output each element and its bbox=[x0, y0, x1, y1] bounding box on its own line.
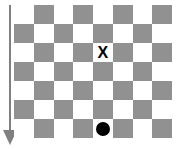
board-cell bbox=[73, 24, 93, 43]
board-cell bbox=[34, 24, 54, 43]
board-cell bbox=[113, 100, 133, 119]
board-cell bbox=[54, 24, 74, 43]
board-cell bbox=[133, 119, 153, 138]
board-cell bbox=[73, 43, 93, 62]
board-cell-with-dot bbox=[93, 119, 113, 138]
board-cell bbox=[113, 81, 133, 100]
board-cell bbox=[54, 100, 74, 119]
board-cell bbox=[54, 119, 74, 138]
board-cell bbox=[93, 5, 113, 24]
board-cell bbox=[73, 5, 93, 24]
board-cell bbox=[133, 81, 153, 100]
board-cell bbox=[73, 119, 93, 138]
board-cell bbox=[54, 5, 74, 24]
checkerboard: X bbox=[14, 5, 172, 138]
board-cell bbox=[54, 81, 74, 100]
board-cell bbox=[34, 43, 54, 62]
board-cell bbox=[152, 119, 172, 138]
board-cell bbox=[152, 43, 172, 62]
dot-marker bbox=[96, 122, 110, 136]
board-cell bbox=[113, 119, 133, 138]
figure-canvas: X bbox=[0, 0, 178, 149]
board-cell bbox=[34, 5, 54, 24]
board-cell bbox=[133, 24, 153, 43]
board-cell bbox=[14, 43, 34, 62]
board-cell bbox=[133, 100, 153, 119]
board-cell bbox=[133, 43, 153, 62]
board-cell bbox=[34, 100, 54, 119]
board-cell bbox=[152, 62, 172, 81]
board-cell bbox=[93, 81, 113, 100]
board-cell bbox=[14, 62, 34, 81]
board-cell bbox=[152, 100, 172, 119]
board-cell bbox=[54, 43, 74, 62]
board-cell bbox=[14, 5, 34, 24]
board-cell bbox=[73, 100, 93, 119]
board-cell bbox=[93, 24, 113, 43]
board-cell bbox=[73, 62, 93, 81]
board-cell bbox=[14, 100, 34, 119]
board-cell bbox=[93, 62, 113, 81]
board-cell bbox=[152, 24, 172, 43]
board-cell bbox=[34, 81, 54, 100]
checkerboard-grid: X bbox=[14, 5, 172, 138]
board-cell bbox=[93, 100, 113, 119]
board-cell bbox=[113, 62, 133, 81]
board-cell bbox=[133, 5, 153, 24]
board-cell bbox=[34, 62, 54, 81]
board-cell bbox=[113, 24, 133, 43]
board-cell bbox=[113, 5, 133, 24]
board-cell bbox=[54, 62, 74, 81]
board-cell bbox=[14, 81, 34, 100]
board-cell-with-x: X bbox=[93, 43, 113, 62]
board-cell bbox=[152, 5, 172, 24]
board-cell bbox=[14, 119, 34, 138]
board-cell bbox=[73, 81, 93, 100]
board-cell bbox=[34, 119, 54, 138]
x-marker: X bbox=[93, 43, 113, 62]
board-cell bbox=[14, 24, 34, 43]
board-cell bbox=[152, 81, 172, 100]
board-cell bbox=[113, 43, 133, 62]
board-cell bbox=[133, 62, 153, 81]
